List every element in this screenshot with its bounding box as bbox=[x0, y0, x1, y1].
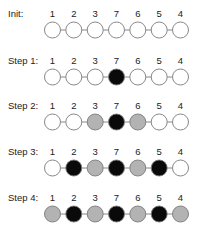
node-circle-white bbox=[130, 69, 146, 85]
node-circle-white bbox=[173, 114, 189, 130]
node-value-label: 2 bbox=[71, 192, 76, 203]
node-value-label: 5 bbox=[157, 8, 162, 19]
node-value-label: 2 bbox=[71, 146, 76, 157]
step-diagram: Init:1237654Step 1:1237654Step 2:1237654… bbox=[0, 0, 197, 229]
node-circle-gray bbox=[173, 206, 189, 222]
node-value-label: 1 bbox=[50, 146, 55, 157]
node-value-label: 3 bbox=[93, 100, 98, 111]
node-value-label: 6 bbox=[135, 100, 140, 111]
node-value-label: 4 bbox=[178, 146, 183, 157]
row-label: Step 3: bbox=[8, 146, 38, 157]
node-value-label: 7 bbox=[114, 55, 119, 66]
row-label: Step 4: bbox=[8, 192, 38, 203]
node-circle-black bbox=[109, 114, 125, 130]
node-circle-white bbox=[66, 114, 82, 130]
node-circle-white bbox=[151, 22, 167, 38]
node-value-label: 6 bbox=[135, 55, 140, 66]
row-label: Step 2: bbox=[8, 100, 38, 111]
node-circle-black bbox=[66, 206, 82, 222]
step-row: Step 3:1237654 bbox=[8, 146, 189, 177]
node-circle-white bbox=[87, 22, 103, 38]
node-circle-white bbox=[173, 160, 189, 176]
node-circle-white bbox=[66, 69, 82, 85]
node-circle-white bbox=[45, 114, 61, 130]
node-value-label: 6 bbox=[135, 146, 140, 157]
node-value-label: 2 bbox=[71, 100, 76, 111]
node-circle-gray bbox=[87, 206, 103, 222]
node-circle-white bbox=[45, 22, 61, 38]
node-circle-white bbox=[45, 69, 61, 85]
node-circle-white bbox=[173, 69, 189, 85]
node-value-label: 2 bbox=[71, 55, 76, 66]
node-circle-white bbox=[130, 22, 146, 38]
node-value-label: 3 bbox=[93, 192, 98, 203]
node-value-label: 4 bbox=[178, 100, 183, 111]
node-value-label: 1 bbox=[50, 55, 55, 66]
node-circle-gray bbox=[130, 160, 146, 176]
node-value-label: 7 bbox=[114, 100, 119, 111]
row-label: Init: bbox=[8, 8, 23, 19]
node-value-label: 7 bbox=[114, 146, 119, 157]
node-circle-white bbox=[45, 160, 61, 176]
node-circle-white bbox=[109, 22, 125, 38]
node-value-label: 3 bbox=[93, 8, 98, 19]
step-row: Step 4:1237654 bbox=[8, 192, 189, 223]
node-circle-black bbox=[109, 160, 125, 176]
node-circle-gray bbox=[87, 114, 103, 130]
node-value-label: 7 bbox=[114, 192, 119, 203]
node-value-label: 4 bbox=[178, 55, 183, 66]
node-value-label: 3 bbox=[93, 146, 98, 157]
node-circle-white bbox=[66, 22, 82, 38]
step-row: Step 1:1237654 bbox=[8, 55, 189, 86]
node-circle-white bbox=[173, 22, 189, 38]
node-value-label: 6 bbox=[135, 8, 140, 19]
node-circle-gray bbox=[45, 206, 61, 222]
node-value-label: 2 bbox=[71, 8, 76, 19]
node-value-label: 5 bbox=[157, 100, 162, 111]
node-circle-black bbox=[109, 206, 125, 222]
node-circle-gray bbox=[130, 114, 146, 130]
node-value-label: 5 bbox=[157, 55, 162, 66]
node-circle-black bbox=[109, 69, 125, 85]
node-value-label: 6 bbox=[135, 192, 140, 203]
node-value-label: 5 bbox=[157, 146, 162, 157]
node-circle-white bbox=[151, 69, 167, 85]
node-circle-white bbox=[151, 114, 167, 130]
node-value-label: 4 bbox=[178, 192, 183, 203]
step-row: Init:1237654 bbox=[8, 8, 189, 39]
node-value-label: 1 bbox=[50, 8, 55, 19]
node-circle-black bbox=[151, 160, 167, 176]
node-circle-black bbox=[66, 160, 82, 176]
node-value-label: 7 bbox=[114, 8, 119, 19]
row-label: Step 1: bbox=[8, 55, 38, 66]
node-value-label: 5 bbox=[157, 192, 162, 203]
node-circle-white bbox=[87, 69, 103, 85]
node-circle-black bbox=[151, 206, 167, 222]
node-circle-gray bbox=[130, 206, 146, 222]
node-value-label: 3 bbox=[93, 55, 98, 66]
node-circle-gray bbox=[87, 160, 103, 176]
node-value-label: 4 bbox=[178, 8, 183, 19]
step-row: Step 2:1237654 bbox=[8, 100, 189, 131]
node-value-label: 1 bbox=[50, 192, 55, 203]
node-value-label: 1 bbox=[50, 100, 55, 111]
